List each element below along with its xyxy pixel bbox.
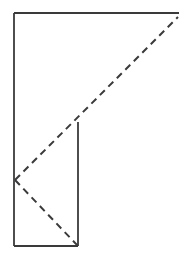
dashed-diagonal-lower [15, 180, 78, 246]
dashed-lines-group [15, 17, 178, 246]
solid-lines-group [14, 13, 179, 246]
dashed-diagonal-upper [15, 17, 178, 180]
figure-canvas [0, 0, 191, 263]
line-diagram [0, 0, 191, 263]
